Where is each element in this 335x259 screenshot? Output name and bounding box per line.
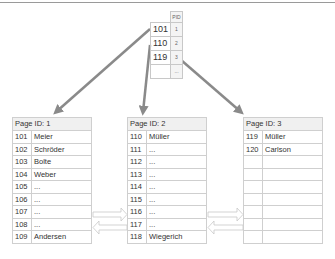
link-arrow-1-2-forward <box>93 208 127 221</box>
page-row <box>244 231 323 244</box>
leaf-page-3: Page ID: 3 119Müller 120Carlson <box>243 117 323 244</box>
row-name: ... <box>147 156 207 169</box>
page-title: Page ID: 1 <box>13 118 92 131</box>
page-row: 118Wiegerich <box>128 231 207 244</box>
row-key: 104 <box>13 168 32 181</box>
page-row: 113... <box>128 168 207 181</box>
pointer-arrow-page-1 <box>56 29 150 112</box>
page-row: 114... <box>128 181 207 194</box>
row-key <box>244 218 263 231</box>
row-key <box>244 193 263 206</box>
root-key: 110 <box>151 37 171 51</box>
row-name: Wiegerich <box>147 231 207 244</box>
row-key: 120 <box>244 143 263 156</box>
page-row: 101Meier <box>13 131 92 144</box>
page-row <box>244 156 323 169</box>
page-title: Page ID: 2 <box>128 118 207 131</box>
row-name <box>263 181 323 194</box>
row-name: Schröder <box>32 143 92 156</box>
pointer-arrow-page-3 <box>181 60 241 112</box>
row-name <box>263 206 323 219</box>
link-arrow-3-2-back <box>208 221 243 234</box>
row-key: 108 <box>13 218 32 231</box>
page-row: 116... <box>128 206 207 219</box>
row-key: 105 <box>13 181 32 194</box>
page-row <box>244 168 323 181</box>
row-key: 118 <box>128 231 147 244</box>
row-name: Carlson <box>263 143 323 156</box>
row-key: 106 <box>13 193 32 206</box>
root-index-node: PID 101 1 110 2 119 3 ... <box>150 11 183 79</box>
row-key <box>244 231 263 244</box>
root-row: ... <box>151 65 183 79</box>
row-name: Müller <box>263 131 323 144</box>
page-title: Page ID: 3 <box>244 118 323 131</box>
row-name: ... <box>147 143 207 156</box>
row-key: 101 <box>13 131 32 144</box>
root-pid: 1 <box>171 23 183 37</box>
link-arrow-2-3-forward <box>208 208 243 221</box>
row-name: Meier <box>32 131 92 144</box>
row-key <box>244 156 263 169</box>
page-row: 108... <box>13 218 92 231</box>
row-key <box>244 168 263 181</box>
link-arrow-2-1-back <box>93 221 127 234</box>
row-key: 111 <box>128 143 147 156</box>
row-name: Müller <box>147 131 207 144</box>
row-key: 102 <box>13 143 32 156</box>
root-key: 119 <box>151 51 171 65</box>
page-row: 106... <box>13 193 92 206</box>
page-row: 120Carlson <box>244 143 323 156</box>
page-row: 112... <box>128 156 207 169</box>
page-row: 111... <box>128 143 207 156</box>
row-key: 115 <box>128 193 147 206</box>
row-name: ... <box>147 206 207 219</box>
row-name: ... <box>32 181 92 194</box>
row-name: ... <box>32 218 92 231</box>
row-name: Andersen <box>32 231 92 244</box>
row-key: 113 <box>128 168 147 181</box>
page-row: 105... <box>13 181 92 194</box>
page-row: 115... <box>128 193 207 206</box>
row-key: 117 <box>128 218 147 231</box>
row-name: Weber <box>32 168 92 181</box>
row-name: ... <box>147 181 207 194</box>
row-name <box>263 218 323 231</box>
row-name: ... <box>147 218 207 231</box>
root-pid: 2 <box>171 37 183 51</box>
row-name <box>263 156 323 169</box>
root-row: 101 1 <box>151 23 183 37</box>
page-row <box>244 181 323 194</box>
row-key: 119 <box>244 131 263 144</box>
row-key: 107 <box>13 206 32 219</box>
row-name: ... <box>32 206 92 219</box>
pointer-arrow-page-2 <box>143 45 150 112</box>
pid-header: PID <box>171 12 183 23</box>
page-row <box>244 206 323 219</box>
row-name <box>263 168 323 181</box>
row-name: Bolte <box>32 156 92 169</box>
root-key: 101 <box>151 23 171 37</box>
page-row: 119Müller <box>244 131 323 144</box>
page-row: 109Andersen <box>13 231 92 244</box>
root-pid: 3 <box>171 51 183 65</box>
row-key <box>244 181 263 194</box>
page-row <box>244 218 323 231</box>
page-row <box>244 193 323 206</box>
leaf-page-1: Page ID: 1 101Meier 102Schröder 103Bolte… <box>12 117 92 244</box>
row-key: 103 <box>13 156 32 169</box>
root-row: 119 3 <box>151 51 183 65</box>
page-row: 103Bolte <box>13 156 92 169</box>
row-key: 109 <box>13 231 32 244</box>
row-name <box>263 193 323 206</box>
root-row: 110 2 <box>151 37 183 51</box>
root-header-row: PID <box>151 12 183 23</box>
row-key: 112 <box>128 156 147 169</box>
page-row: 107... <box>13 206 92 219</box>
row-name <box>263 231 323 244</box>
page-row: 110Müller <box>128 131 207 144</box>
page-row: 104Weber <box>13 168 92 181</box>
row-name: ... <box>32 193 92 206</box>
row-name: ... <box>147 168 207 181</box>
row-name: ... <box>147 193 207 206</box>
